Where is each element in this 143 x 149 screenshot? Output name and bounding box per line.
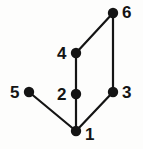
graph-canvas	[0, 0, 143, 149]
node-label-1: 1	[85, 126, 94, 143]
node-label-5: 5	[10, 84, 19, 101]
node-layer	[24, 8, 118, 136]
edge-layer	[29, 13, 113, 131]
graph-diagram: 123456	[0, 0, 143, 149]
graph-node-3	[108, 87, 118, 97]
graph-node-5	[24, 87, 34, 97]
graph-edge-5-1	[29, 92, 76, 131]
graph-node-4	[71, 48, 81, 58]
node-label-3: 3	[122, 84, 131, 101]
graph-edge-3-1	[76, 92, 113, 131]
node-label-2: 2	[57, 86, 66, 103]
graph-node-1	[71, 126, 81, 136]
graph-node-2	[71, 89, 81, 99]
node-label-6: 6	[122, 4, 131, 21]
node-label-4: 4	[57, 45, 66, 62]
graph-node-6	[108, 8, 118, 18]
graph-edge-4-6	[76, 13, 113, 53]
